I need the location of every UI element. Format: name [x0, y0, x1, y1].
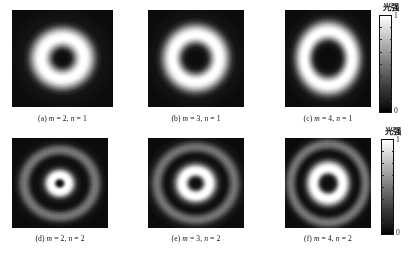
colorbar-top-title: 光强: [374, 2, 408, 12]
panel-e-intensity-map: [148, 138, 244, 228]
panel-a-intensity-map: [12, 10, 113, 107]
panel-f-image: [285, 138, 371, 228]
panel-b: (b) m = 3, n = 1: [148, 10, 244, 107]
panel-e: (e) m = 3, n = 2: [148, 138, 244, 228]
panel-f-caption-text: (f) m = 4, n = 2: [304, 234, 352, 243]
colorbar-bottom-max-label: 1: [396, 136, 400, 144]
colorbar-top-max-text: 1: [394, 11, 398, 20]
panel-b-intensity-map: [148, 10, 244, 107]
panel-c-caption-text: (c) m = 4, n = 1: [304, 114, 353, 123]
panel-c: (c) m = 4, n = 1: [285, 10, 371, 107]
colorbar-bottom-gradient: [381, 139, 394, 235]
colorbar-bottom: 光强 1 0: [372, 126, 412, 241]
panel-f-intensity-map: [285, 138, 371, 228]
panel-d-image: [12, 138, 108, 228]
panel-d-caption-text: (d) m = 2, n = 2: [35, 234, 84, 243]
colorbar-top: 光强 1 0: [370, 2, 412, 122]
colorbar-bottom-title: 光强: [376, 126, 410, 136]
colorbar-top-max-label: 1: [394, 12, 398, 20]
panel-e-caption: (e) m = 3, n = 2: [126, 234, 266, 243]
colorbar-bottom-max-text: 1: [396, 135, 400, 144]
colorbar-top-min-label: 0: [394, 107, 398, 115]
colorbar-top-min-text: 0: [394, 106, 398, 115]
panel-e-caption-text: (e) m = 3, n = 2: [172, 234, 221, 243]
panel-f: (f) m = 4, n = 2: [285, 138, 371, 228]
panel-d: (d) m = 2, n = 2: [12, 138, 108, 228]
panel-e-image: [148, 138, 244, 228]
panel-b-image: [148, 10, 244, 107]
panel-d-intensity-map: [12, 138, 108, 228]
colorbar-top-gradient: [379, 15, 392, 113]
panel-c-image: [285, 10, 371, 107]
panel-a-image: [12, 10, 113, 107]
figure-root: (a) m = 2, n = 1: [0, 0, 412, 255]
panel-c-intensity-map: [285, 10, 371, 107]
panel-a-caption-text: (a) m = 2, n = 1: [38, 114, 87, 123]
colorbar-bottom-min-text: 0: [396, 228, 400, 237]
panel-b-caption: (b) m = 3, n = 1: [126, 114, 266, 123]
panel-b-caption-text: (b) m = 3, n = 1: [171, 114, 220, 123]
panel-a: (a) m = 2, n = 1: [12, 10, 113, 107]
colorbar-bottom-min-label: 0: [396, 229, 400, 237]
panel-d-caption: (d) m = 2, n = 2: [0, 234, 130, 243]
panel-a-caption: (a) m = 2, n = 1: [0, 114, 135, 123]
